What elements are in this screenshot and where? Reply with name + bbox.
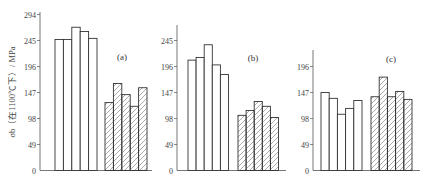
y-tick-label: 98 [28,115,36,124]
open-bar [321,93,329,171]
y-tick-label: 147 [161,89,173,98]
hatched-bar [270,117,278,170]
hatched-bar [238,115,246,170]
hatched-bar [396,91,404,170]
y-tick-label: 147 [297,89,309,98]
hatched-bar [404,99,412,170]
panel-c: 04998147196(c) [297,50,420,176]
open-bar [72,27,80,170]
panel-label: (c) [386,54,396,64]
panel-b: 04998147196245(b) [161,25,286,176]
open-bar [188,60,196,170]
hatched-bar [254,102,262,171]
panel-a: 04998147196245294(a) [24,11,152,176]
hatched-bar [122,95,130,171]
open-bar [204,45,212,171]
hatched-bar [371,97,379,171]
open-bar [89,38,97,170]
hatched-bar [113,83,121,170]
open-bar [63,39,71,170]
y-tick-label: 98 [165,115,173,124]
hatched-bar [130,106,138,170]
open-bar [212,65,220,171]
open-bar [196,57,204,170]
hatched-bar [379,77,387,170]
hatched-bar [246,111,254,171]
open-bar [55,39,63,170]
open-bar [80,31,88,170]
hatched-bar [105,103,113,171]
bar-chart: σb（在1100℃下）/ MPa 04998147196245294(a)049… [0,0,432,186]
hatched-bar [139,88,147,171]
y-tick-label: 147 [24,89,36,98]
open-bar [329,98,337,170]
y-tick-label: 49 [165,141,173,150]
y-tick-label: 0 [169,167,173,176]
hatched-bar [262,106,270,170]
y-tick-label: 98 [301,115,309,124]
y-tick-label: 196 [24,63,36,72]
panel-label: (b) [248,53,259,63]
open-bar [354,100,362,170]
y-tick-label: 294 [24,11,36,20]
open-bar [337,114,345,170]
y-axis-label: σb（在1100℃下）/ MPa [7,46,17,137]
y-tick-label: 245 [24,37,36,46]
y-tick-label: 0 [32,167,36,176]
y-tick-label: 49 [301,141,309,150]
panel-label: (a) [117,52,127,62]
y-tick-label: 196 [297,63,309,72]
y-tick-label: 196 [161,63,173,72]
y-tick-label: 49 [28,141,36,150]
hatched-bar [387,97,395,171]
open-bar [220,74,228,170]
y-tick-label: 245 [161,37,173,46]
open-bar [346,108,354,170]
y-tick-label: 0 [305,167,309,176]
